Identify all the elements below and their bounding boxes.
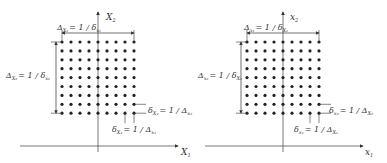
sample-point: [114, 76, 117, 79]
sample-point: [69, 49, 72, 52]
sample-point: [87, 112, 90, 115]
sample-point: [114, 67, 117, 70]
left-extent-label: Δx₂= 1 / δX₂: [197, 71, 242, 81]
sample-point: [308, 58, 311, 61]
sample-point: [299, 112, 302, 115]
sample-point: [317, 94, 320, 97]
sample-point: [299, 40, 302, 43]
sample-point: [299, 76, 302, 79]
sample-point: [123, 58, 126, 61]
sample-point: [254, 85, 257, 88]
sample-point: [105, 76, 108, 79]
sample-point: [290, 49, 293, 52]
sample-point: [132, 94, 135, 97]
row-spacing-label: δX₂= 1 / Δx₂: [148, 106, 192, 116]
top-extent-label: Δx₁= 1 / δX₁: [243, 23, 288, 33]
sample-point: [78, 49, 81, 52]
sample-point: [254, 58, 257, 61]
sample-point: [123, 85, 126, 88]
sample-point: [60, 103, 63, 106]
sample-point: [69, 76, 72, 79]
sample-point: [132, 58, 135, 61]
sample-point: [281, 67, 284, 70]
sample-point: [299, 49, 302, 52]
sample-point: [114, 85, 117, 88]
sample-point: [281, 76, 284, 79]
sample-point: [263, 58, 266, 61]
sample-point: [96, 40, 99, 43]
sample-point: [69, 103, 72, 106]
sample-point: [245, 103, 248, 106]
sample-point: [263, 76, 266, 79]
sample-point: [254, 94, 257, 97]
sample-point: [245, 58, 248, 61]
sample-point: [105, 94, 108, 97]
sample-point: [69, 94, 72, 97]
sample-point: [317, 76, 320, 79]
sample-point: [96, 76, 99, 79]
sample-point: [272, 67, 275, 70]
sample-point: [114, 94, 117, 97]
sample-point: [263, 112, 266, 115]
sample-point: [69, 112, 72, 115]
sample-point: [272, 40, 275, 43]
sample-point: [281, 40, 284, 43]
sample-point: [123, 67, 126, 70]
sample-point: [281, 49, 284, 52]
sample-point: [123, 103, 126, 106]
sample-point: [245, 67, 248, 70]
sample-point: [105, 85, 108, 88]
panel-left: X2 X1 ΔX₁= 1 / δx₁ ΔX₂= 1 / δx₂ δX₂= 1 /…: [5, 12, 192, 158]
sample-point: [87, 58, 90, 61]
sample-point: [281, 112, 284, 115]
panel-right: x2 x1 Δx₁= 1 / δX₁ Δx₂= 1 / δX₂ δx₂= 1 /…: [197, 12, 373, 158]
sample-point: [308, 103, 311, 106]
sample-point: [254, 112, 257, 115]
sample-point: [114, 58, 117, 61]
sample-point: [123, 94, 126, 97]
sample-point: [272, 58, 275, 61]
sample-point: [105, 49, 108, 52]
sample-point: [132, 67, 135, 70]
sample-point: [245, 85, 248, 88]
sample-point: [254, 76, 257, 79]
sample-point: [87, 49, 90, 52]
sample-point: [60, 67, 63, 70]
sample-point: [114, 40, 117, 43]
sample-point: [78, 112, 81, 115]
sample-point: [123, 49, 126, 52]
sample-point: [132, 85, 135, 88]
sample-point: [317, 85, 320, 88]
sample-point: [263, 40, 266, 43]
sample-point: [272, 85, 275, 88]
sample-point: [245, 94, 248, 97]
sample-point: [96, 58, 99, 61]
sample-point: [69, 40, 72, 43]
sample-point: [299, 58, 302, 61]
sample-point: [290, 94, 293, 97]
sample-point: [263, 85, 266, 88]
sample-point: [299, 94, 302, 97]
sample-point: [290, 103, 293, 106]
sample-point: [281, 58, 284, 61]
sample-point: [78, 103, 81, 106]
sample-point: [299, 103, 302, 106]
sample-point: [290, 85, 293, 88]
left-extent-label: ΔX₂= 1 / δx₂: [5, 71, 50, 81]
sample-point: [263, 49, 266, 52]
sample-point: [87, 94, 90, 97]
sample-point: [69, 67, 72, 70]
sample-point: [87, 85, 90, 88]
sample-point: [96, 85, 99, 88]
sample-point: [290, 58, 293, 61]
sample-point: [96, 103, 99, 106]
sample-point: [87, 67, 90, 70]
sample-point: [96, 67, 99, 70]
sample-point: [272, 94, 275, 97]
sample-point: [308, 49, 311, 52]
sample-point: [281, 85, 284, 88]
sample-point: [60, 94, 63, 97]
sample-grid: [60, 40, 135, 114]
sample-point: [96, 94, 99, 97]
row-spacing-label: δx₂= 1 / ΔX₂: [329, 106, 373, 116]
